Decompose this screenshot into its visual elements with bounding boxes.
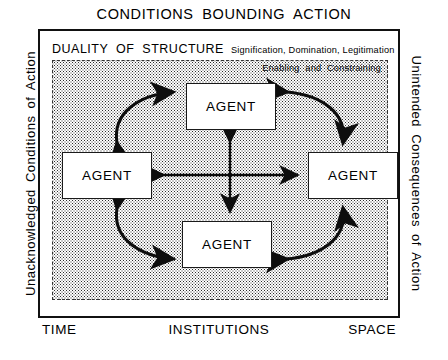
agent-box-right-label: AGENT [328, 168, 378, 183]
structuration-diagram: CONDITIONS BOUNDING ACTION Unacknowledge… [0, 0, 448, 360]
duality-sub-label: Signification, Domination, Legitimation [231, 45, 395, 55]
diagram-top-title: CONDITIONS BOUNDING ACTION [0, 6, 448, 22]
enabling-and-constraining-label: Enabling and Constraining [262, 63, 381, 73]
bottom-label-row: TIME INSTITUTIONS SPACE [38, 322, 400, 342]
agent-box-bottom-label: AGENT [202, 237, 252, 252]
bottom-right-label: SPACE [348, 322, 396, 337]
right-axis-label: Unintended Consequences of Action [402, 29, 424, 318]
agent-box-left-label: AGENT [82, 168, 132, 183]
agent-box-right: AGENT [308, 152, 398, 199]
agent-box-bottom: AGENT [182, 221, 272, 268]
agent-box-top-label: AGENT [206, 99, 256, 114]
agent-box-top: AGENT [186, 83, 276, 130]
duality-of-structure-header: DUALITY OF STRUCTURESignification, Domin… [52, 39, 388, 55]
agent-box-left: AGENT [62, 152, 152, 199]
duality-main-label: DUALITY OF STRUCTURE [52, 42, 224, 56]
bottom-center-label: INSTITUTIONS [38, 322, 400, 337]
